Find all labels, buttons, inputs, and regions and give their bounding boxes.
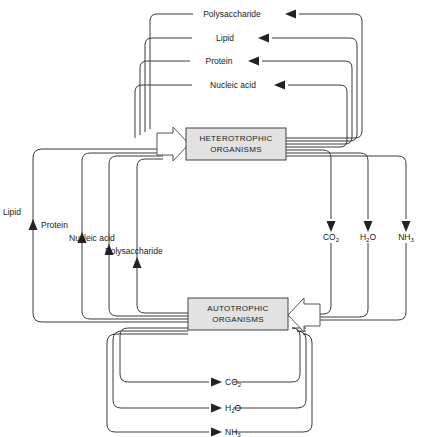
top-stub-protein — [140, 61, 190, 135]
arrow-up-lipid — [29, 219, 38, 230]
label-bottom-co2: CO2 — [225, 377, 242, 388]
arrow-left-polysaccharide — [285, 10, 296, 19]
bottom-flowline-co2 — [120, 328, 209, 382]
label-right-nh3: NH3 — [398, 232, 414, 243]
big-arrow-into-autotrophic — [288, 298, 320, 332]
heterotrophic-box[interactable] — [186, 128, 286, 160]
left-labels: Lipid Protein Nucleic acid Polysaccharid… — [3, 207, 163, 256]
right-flowline-co2-lower — [306, 243, 331, 314]
label-right-co2-base: CO — [323, 232, 336, 242]
top-stub-polysaccharide — [150, 14, 193, 129]
arrow-up-polysaccharide — [133, 257, 142, 268]
right-flowline-nh3-lower — [306, 243, 406, 320]
label-left-protein: Protein — [41, 220, 68, 230]
arrow-down-co2 — [327, 221, 336, 232]
label-bottom-co2-base: CO — [225, 377, 238, 387]
label-top-polysaccharide: Polysaccharide — [203, 9, 261, 19]
label-left-polysaccharide: Polysaccharide — [105, 246, 163, 256]
bottom-loop-group — [107, 328, 312, 437]
right-loop-group — [286, 150, 411, 320]
bottom-flowline-co2-right — [233, 328, 306, 382]
left-flowline-nucleic-acid — [109, 156, 188, 316]
right-labels: CO2 H2O NH3 — [323, 232, 415, 243]
right-flowline-co2 — [286, 150, 331, 219]
label-right-nh3-base: NH — [398, 232, 410, 242]
bottom-flowline-nh3 — [107, 334, 209, 432]
arrow-left-protein — [248, 57, 259, 66]
cycle-diagram: Polysaccharide Lipid Protein Nucleic aci… — [0, 0, 425, 437]
bottom-labels: CO2 H2O NH3 — [225, 377, 242, 437]
arrow-left-lipid — [258, 34, 269, 43]
label-bottom-nh3-base: NH — [225, 427, 237, 437]
label-left-lipid: Lipid — [3, 207, 21, 217]
arrow-right-h2o — [211, 404, 222, 413]
label-top-nucleic-acid: Nucleic acid — [210, 80, 256, 90]
label-right-h2o-tail: O — [369, 232, 376, 242]
label-bottom-nh3: NH3 — [225, 427, 241, 437]
heterotrophic-box-line2: ORGANISMS — [210, 145, 262, 154]
arrow-right-co2 — [211, 378, 222, 387]
autotrophic-box-line2: ORGANISMS — [212, 315, 264, 324]
label-right-nh3-sub: 3 — [410, 236, 414, 243]
diagram-canvas: Polysaccharide Lipid Protein Nucleic aci… — [0, 0, 425, 437]
top-loop-group — [135, 10, 362, 148]
label-bottom-nh3-sub: 3 — [237, 431, 241, 437]
arrow-down-nh3 — [402, 221, 411, 232]
right-flowline-h2o — [286, 153, 368, 219]
bottom-flowline-h2o — [113, 331, 209, 408]
arrow-left-nucleic-acid — [274, 81, 285, 90]
autotrophic-box[interactable] — [188, 298, 288, 330]
label-top-lipid: Lipid — [216, 33, 234, 43]
top-flowline-lipid — [272, 38, 357, 141]
bottom-flowline-h2o-right — [233, 331, 306, 408]
label-top-protein: Protein — [206, 56, 233, 66]
top-flowline-polysaccharide — [286, 14, 362, 138]
label-right-h2o: H2O — [360, 232, 377, 243]
label-bottom-h2o-tail: O — [235, 403, 242, 413]
top-stub-nucleic-acid — [135, 85, 192, 138]
left-flowline-polysaccharide — [137, 159, 188, 313]
label-right-co2-sub: 2 — [336, 236, 340, 243]
arrow-right-nh3 — [211, 428, 222, 437]
label-bottom-co2-sub: 2 — [238, 381, 242, 388]
label-left-nucleic-acid: Nucleic acid — [69, 233, 115, 243]
label-bottom-h2o: H2O — [225, 403, 242, 414]
autotrophic-box-line1: AUTOTROPHIC — [207, 304, 268, 313]
top-labels: Polysaccharide Lipid Protein Nucleic aci… — [203, 9, 261, 90]
heterotrophic-box-line1: HETEROTROPHIC — [199, 134, 272, 143]
arrow-down-h2o — [364, 221, 373, 232]
label-right-co2: CO2 — [323, 232, 340, 243]
right-flowline-nh3 — [286, 156, 406, 219]
